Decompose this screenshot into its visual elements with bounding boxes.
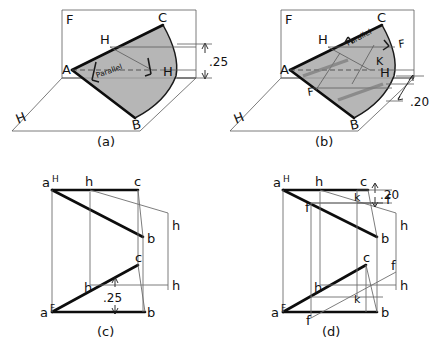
panel-c-front-point-a-superscript: F [50, 303, 55, 313]
panel-c-front-point-c: c [135, 250, 142, 265]
panel-d-side-label-h-upper: h [400, 218, 408, 233]
panel-a-line-label-h-lower: H [163, 64, 173, 79]
panel-a-label-horizontal-plane: H [14, 109, 29, 127]
panel-d-top-point-h: h [315, 174, 323, 189]
panel-c: .25 a H h c b a F h c b h h (c) [40, 174, 180, 339]
panel-a-dimension-25 [177, 43, 212, 79]
panel-d-front-point-k: k [354, 293, 361, 306]
panel-a: Parallel .25 F H A B C H H (a) [12, 10, 228, 149]
panel-d-top-point-b: b [381, 231, 389, 246]
panel-b-dimension-value: .20 [410, 95, 429, 109]
panel-d-side-label-h-lower: h [400, 278, 408, 293]
panel-d-front-point-f-right: f [391, 258, 396, 273]
panel-d-front-point-b: b [381, 305, 389, 320]
panel-c-top-point-b: b [147, 231, 155, 246]
panel-a-caption: (a) [97, 134, 115, 149]
panel-d-top-point-f-right: f [386, 192, 391, 207]
panel-b-vertex-a: A [280, 62, 289, 77]
panel-c-caption: (c) [97, 324, 114, 339]
panel-b-label-frontal-plane: F [285, 12, 292, 27]
technical-drawing-canvas: Parallel .25 F H A B C H H (a) [0, 0, 435, 348]
panel-b-point-k: K [376, 55, 384, 68]
panel-c-front-point-h: h [84, 280, 92, 295]
panel-d-top-point-c: c [360, 174, 367, 189]
panel-d-top-point-a-superscript: H [283, 174, 290, 184]
panel-d-top-view [283, 190, 377, 237]
panel-b-line-label-f-right: F [398, 37, 406, 51]
panel-a-line-label-h-upper: H [100, 32, 110, 47]
panel-a-vertex-c: C [158, 10, 167, 25]
panel-d-caption: (d) [322, 324, 340, 339]
panel-b-caption: (b) [315, 134, 333, 149]
panel-c-side-label-h-lower: h [172, 278, 180, 293]
panel-a-vertex-b: B [131, 116, 143, 133]
panel-c-dimension-value: .25 [103, 291, 122, 305]
panel-c-front-point-a: a [40, 305, 48, 320]
panel-d-front-point-c: c [363, 250, 370, 265]
panel-b-label-horizontal-plane: H [232, 109, 247, 127]
panel-b-line-label-h-upper: H [318, 32, 328, 47]
panel-d-front-point-h: h [314, 280, 322, 295]
panel-d-front-point-f-bottom: f [306, 313, 311, 328]
panel-c-side-label-h-upper: h [172, 218, 180, 233]
panel-d-front-point-a: a [271, 305, 279, 320]
panel-c-top-point-h: h [85, 174, 93, 189]
panel-b-vertex-b: B [349, 116, 361, 133]
panel-d-front-view [283, 265, 377, 312]
panel-d: .20 a H h c k f f b a F h c k f f b h h … [271, 174, 408, 339]
panel-c-top-point-a: a [42, 175, 50, 190]
panel-a-vertex-a: A [62, 62, 71, 77]
figure-root: Parallel .25 F H A B C H H (a) [0, 0, 435, 348]
panel-c-front-point-b: b [147, 305, 155, 320]
panel-d-projectors [283, 190, 396, 318]
panel-c-top-point-c: c [134, 174, 141, 189]
panel-a-label-frontal-plane: F [66, 12, 73, 27]
panel-a-dimension-value: .25 [209, 55, 228, 69]
panel-d-top-point-f-left: f [305, 200, 310, 215]
panel-d-front-point-a-superscript: F [281, 303, 286, 313]
panel-c-front-view [52, 265, 145, 312]
panel-b: Parallel .20 F H A B C H H F F K (b) [230, 10, 429, 149]
panel-c-top-view [52, 190, 143, 237]
panel-d-top-point-k: k [354, 191, 361, 204]
panel-d-top-point-a: a [273, 175, 281, 190]
panel-c-top-point-a-superscript: H [52, 174, 59, 184]
panel-b-vertex-c: C [377, 10, 386, 25]
panel-a-plane-abc [72, 25, 177, 118]
